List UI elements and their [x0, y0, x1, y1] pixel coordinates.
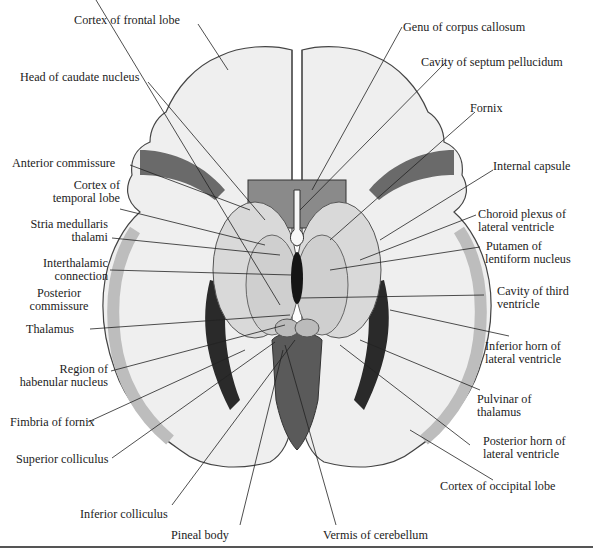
label-cavity-third-ventricle: Cavity of third ventricle — [497, 285, 569, 311]
label-genu-corpus-callosum: Genu of corpus callosum — [403, 21, 525, 34]
label-line-2: lateral ventricle — [483, 448, 566, 461]
label-cavity-septum-pellucidum: Cavity of septum pellucidum — [421, 56, 563, 69]
label-inferior-colliculus: Inferior colliculus — [80, 508, 168, 521]
label-inferior-horn: Inferior horn of lateral ventricle — [485, 340, 561, 366]
label-vermis-cerebellum: Vermis of cerebellum — [323, 529, 428, 542]
label-line-2: lateral ventricle — [485, 353, 561, 366]
label-habenular-nucleus: Region of habenular nucleus — [2, 363, 108, 389]
label-line-2: ventricle — [497, 298, 569, 311]
label-line-2: habenular nucleus — [2, 376, 108, 389]
label-stria-medullaris-thalami: Stria medullaris thalami — [10, 218, 108, 244]
label-fornix: Fornix — [470, 102, 503, 115]
label-internal-capsule: Internal capsule — [493, 160, 571, 173]
label-posterior-commissure: Posterior commissure — [22, 287, 96, 313]
label-pulvinar-thalamus: Pulvinar of thalamus — [477, 393, 532, 419]
label-head-caudate-nucleus: Head of caudate nucleus — [20, 71, 139, 84]
label-interthalamic-connection: Interthalamic connection — [10, 257, 108, 283]
label-line-2: lentiform nucleus — [485, 253, 571, 266]
label-superior-colliculus: Superior colliculus — [16, 453, 108, 466]
label-thalamus: Thalamus — [26, 323, 74, 336]
label-line-2: lateral ventricle — [478, 221, 566, 234]
label-line-2: commissure — [22, 300, 96, 313]
label-pineal-body: Pineal body — [171, 529, 229, 542]
label-putamen-lentiform: Putamen of lentiform nucleus — [485, 240, 571, 266]
caption-divider — [0, 546, 593, 548]
label-cortex-temporal-lobe: Cortex of temporal lobe — [40, 179, 120, 205]
label-posterior-horn: Posterior horn of lateral ventricle — [483, 435, 566, 461]
label-cortex-frontal-lobe: Cortex of frontal lobe — [74, 14, 180, 27]
label-line-2: thalamus — [477, 406, 532, 419]
label-choroid-plexus: Choroid plexus of lateral ventricle — [478, 208, 566, 234]
label-line-2: connection — [10, 270, 108, 283]
label-fimbria-fornix: Fimbria of fornix — [10, 416, 95, 429]
label-line-2: thalami — [10, 231, 108, 244]
label-cortex-occipital-lobe: Cortex of occipital lobe — [440, 480, 555, 493]
label-line-2: temporal lobe — [40, 192, 120, 205]
label-anterior-commissure: Anterior commissure — [12, 157, 115, 170]
